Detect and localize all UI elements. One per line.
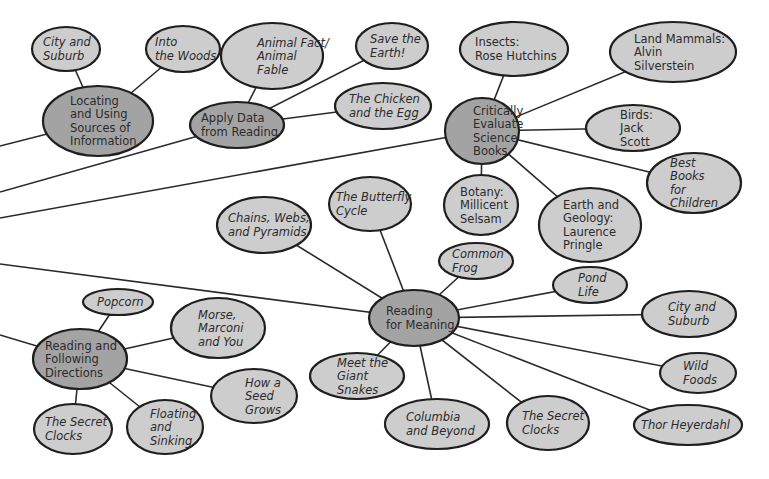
node-label-line: Suburb [668,314,709,328]
node-label-line: Seed [245,389,274,403]
node-label-line: Frog [452,261,478,275]
node-label-line: Foods [683,373,717,387]
node-insects[interactable]: Insects:Rose Hutchins [460,22,568,76]
node-best-books[interactable]: BestBooksforChildren [647,153,741,213]
node-label-line: The Butterfly [336,190,411,204]
node-chicken-egg[interactable]: The Chickenand the Egg [335,83,431,129]
node-into-woods[interactable]: Intothe Woods [146,26,220,72]
node-label-line: Millicent [460,198,508,212]
node-label-line: Jack [619,121,644,135]
node-label-line: Save the [370,32,421,46]
node-secret-clocks-2[interactable]: The SecretClocks [507,396,589,450]
node-label-line: Popcorn [97,295,144,309]
node-label-line: Critically [473,104,523,118]
node-label-line: Into [155,35,177,49]
node-label-line: Silverstein [634,59,694,73]
node-label-line: Animal Fact/ [256,36,330,50]
node-label-line: The Chicken [349,92,420,106]
node-label-line: and You [198,335,243,349]
node-city-suburb-2[interactable]: City andSuburb [642,291,736,337]
node-label-line: Giant [337,369,368,383]
node-label-line: Best [670,156,696,170]
node-label-line: Pringle [563,238,603,252]
node-locating[interactable]: Locatingand UsingSources ofInformation [43,86,153,156]
node-label-line: City and [43,35,92,49]
node-earth-geology[interactable]: Earth andGeology:LaurencePringle [539,188,641,262]
node-label-line: Clocks [45,429,82,443]
node-label-line: Earth and [563,198,619,212]
node-columbia[interactable]: Columbiaand Beyond [385,399,489,449]
concept-web-diagram: Locatingand UsingSources ofInformationCi… [0,0,769,479]
node-label-line: Meet the [337,356,388,370]
node-label-line: Alvin [634,45,662,59]
node-label-line: Apply Data [201,111,265,125]
node-common-frog[interactable]: CommonFrog [439,243,513,279]
node-seed-grows[interactable]: How aSeedGrows [211,369,297,423]
node-label-line: City and [668,300,717,314]
node-label-line: for [670,183,687,197]
node-label-line: Fable [257,63,288,77]
node-label-line: Suburb [43,49,84,63]
node-floating[interactable]: FloatingandSinking [127,400,203,454]
node-birds[interactable]: Birds:JackScott [586,105,680,151]
node-chains-webs[interactable]: Chains, Webs,and Pyramids [217,197,311,253]
node-label-line: Reading and [45,339,117,353]
node-label-line: Earth! [370,46,405,60]
node-label-line: Scott [620,135,650,149]
node-city-suburb-1[interactable]: City andSuburb [32,27,100,71]
node-morse[interactable]: Morse,Marconiand You [171,298,265,358]
node-label-line: from Reading [201,125,278,139]
node-label-line: Geology: [563,211,613,225]
node-wild-foods[interactable]: WildFoods [660,353,736,393]
node-critically[interactable]: CriticallyEvaluateScienceBooks [445,98,523,164]
node-secret-clocks-1[interactable]: The SecretClocks [34,404,112,454]
node-label-line: Botany: [460,185,504,199]
node-label-line: Birds: [620,108,653,122]
node-label-line: the Woods [155,49,216,63]
node-label-line: Books [473,144,508,158]
node-save-earth[interactable]: Save theEarth! [356,23,428,69]
node-label-line: Books [670,169,705,183]
node-reading-directions[interactable]: Reading andFollowingDirections [33,329,127,389]
node-label-line: The Secret [45,415,108,429]
node-botany[interactable]: Botany:MillicentSelsam [444,175,518,235]
node-label-line: Marconi [198,321,244,335]
node-label-line: and Using [70,107,127,121]
node-reading-meaning[interactable]: Readingfor Meaning [369,290,459,346]
node-label-line: Locating [70,94,119,108]
node-popcorn[interactable]: Popcorn [83,289,153,315]
node-label-line: Following [45,352,99,366]
node-label-line: Directions [45,366,103,380]
node-label-line: Evaluate [473,117,523,131]
node-apply-data[interactable]: Apply Datafrom Reading [190,102,284,148]
node-giant-snakes[interactable]: Meet theGiantSnakes [310,353,404,399]
node-label-line: Chains, Webs, [228,211,310,225]
node-label-line: Science [473,131,518,145]
node-label-line: Sinking [150,434,192,448]
node-label-line: Grows [245,403,281,417]
node-label-line: for Meaning [386,318,455,332]
node-label-line: Selsam [460,212,502,226]
node-label-line: and [150,420,172,434]
node-label-line: Snakes [337,383,378,397]
node-label-line: Insects: [475,35,519,49]
node-label-line: How a [245,376,281,390]
node-land-mammals[interactable]: Land Mammals:AlvinSilverstein [610,22,736,82]
node-label-line: Floating [150,407,196,421]
node-label-line: and Pyramids [228,225,307,239]
node-label-line: Information [70,134,137,148]
node-label-line: Pond [578,271,607,285]
node-label-line: The Secret [522,409,585,423]
node-label-line: Columbia [406,410,460,424]
node-butterfly[interactable]: The ButterflyCycle [329,177,411,231]
node-label-line: Morse, [198,308,236,322]
node-label-line: Wild [683,359,709,373]
node-animal-fact[interactable]: Animal Fact/AnimalFable [221,23,330,89]
node-label-line: Reading [386,304,433,318]
node-thor[interactable]: Thor Heyerdahl [634,405,742,445]
node-label-line: Clocks [522,423,559,437]
node-label-line: and Beyond [406,424,475,438]
node-label-line: Thor Heyerdahl [641,418,731,432]
node-pond-life[interactable]: PondLife [553,267,627,303]
node-label-line: Life [578,285,599,299]
